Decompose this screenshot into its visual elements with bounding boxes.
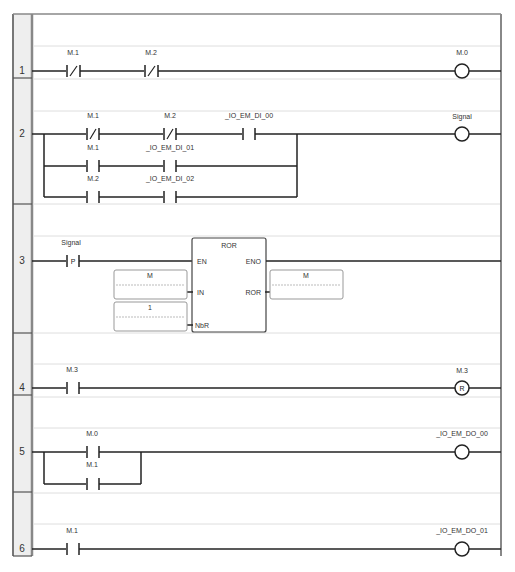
contact-nc-m2[interactable]: M.2 — [145, 49, 158, 77]
edge-glyph: P — [71, 258, 76, 265]
contact-label: M.1 — [66, 527, 78, 534]
contact-label: M.2 — [164, 112, 176, 119]
contact-label: _IO_EM_DI_02 — [145, 175, 194, 183]
contact-no-m1[interactable]: M.1 — [87, 144, 99, 172]
rung-number: 3 — [19, 255, 25, 266]
contact-label: M.1 — [87, 112, 99, 119]
rung-number: 2 — [19, 128, 25, 139]
rung-5[interactable]: 5 M.0 M.1 _IO_EM_DO_00 — [19, 430, 501, 490]
contact-label: _IO_EM_DI_01 — [145, 144, 194, 152]
contact-no-io-em-di-02[interactable]: _IO_EM_DI_02 — [145, 175, 194, 203]
operand-value: M — [147, 272, 153, 279]
operand-value: M — [303, 272, 309, 279]
block-name: ROR — [221, 242, 237, 249]
contact-label: M.1 — [86, 461, 98, 468]
rung-number: 4 — [19, 382, 25, 393]
contact-no-m0[interactable]: M.0 — [86, 430, 99, 458]
coil-label: Signal — [452, 113, 472, 121]
contact-no-m1[interactable]: M.1 — [66, 527, 79, 555]
pin-nbr: NbR — [195, 322, 209, 329]
rung-number: 1 — [19, 65, 25, 76]
rung-3[interactable]: 3 P Signal ROR EN IN NbR ENO ROR M — [19, 238, 501, 332]
contact-label: M.2 — [87, 175, 99, 182]
operand-value: 1 — [148, 304, 152, 311]
contact-label: M.0 — [86, 430, 98, 437]
contact-no-m2[interactable]: M.2 — [87, 175, 99, 203]
pin-in: IN — [197, 289, 204, 296]
coil-label: _IO_EM_DO_01 — [435, 527, 488, 535]
rung-2[interactable]: 2 M.1 M.2 _IO_EM_DI_00 Signal — [19, 112, 501, 203]
contact-no-m3[interactable]: M.3 — [66, 366, 79, 394]
coil-label: M.3 — [456, 367, 468, 374]
contact-no-io-em-di-01[interactable]: _IO_EM_DI_01 — [145, 144, 194, 172]
ladder-diagram: 1 M.1 M.2 M.0 2 — [0, 0, 515, 572]
coil-label: M.0 — [456, 49, 468, 56]
rung-1[interactable]: 1 M.1 M.2 M.0 — [19, 49, 501, 78]
coil-label: _IO_EM_DO_00 — [435, 430, 488, 438]
pin-eno: ENO — [246, 258, 262, 265]
coil-signal[interactable]: Signal — [452, 113, 472, 141]
contact-nc-m1[interactable]: M.1 — [87, 112, 99, 140]
coil-glyph: R — [459, 385, 464, 392]
operand-in-field[interactable]: M — [114, 270, 187, 299]
operand-nbr-field[interactable]: 1 — [114, 302, 187, 331]
rung-number: 5 — [19, 446, 25, 457]
coil-reset-m3[interactable]: R M.3 — [455, 367, 469, 395]
contact-positive-edge-signal[interactable]: P Signal — [61, 239, 81, 267]
contact-nc-m1[interactable]: M.1 — [67, 49, 80, 77]
operand-out-field[interactable]: M — [270, 270, 343, 299]
contact-label: M.1 — [67, 49, 79, 56]
contact-label: M.2 — [145, 49, 157, 56]
rung-4[interactable]: 4 M.3 R M.3 — [19, 366, 501, 395]
contact-label: M.1 — [87, 144, 99, 151]
coil-io-em-do-01[interactable]: _IO_EM_DO_01 — [435, 527, 488, 556]
pin-ror: ROR — [245, 289, 261, 296]
coil-io-em-do-00[interactable]: _IO_EM_DO_00 — [435, 430, 488, 459]
rung-number: 6 — [19, 543, 25, 554]
contact-label: _IO_EM_DI_00 — [224, 112, 273, 120]
contact-no-io-em-di-00[interactable]: _IO_EM_DI_00 — [224, 112, 273, 140]
rung-number-gutter — [13, 14, 32, 556]
contact-label: M.3 — [66, 366, 78, 373]
contact-nc-m2[interactable]: M.2 — [164, 112, 176, 140]
coil-m0[interactable]: M.0 — [455, 49, 469, 78]
function-block-ror[interactable]: ROR EN IN NbR ENO ROR — [187, 238, 271, 332]
pin-en: EN — [197, 258, 207, 265]
contact-no-m1[interactable]: M.1 — [86, 461, 99, 490]
contact-label: Signal — [61, 239, 81, 247]
rung-6[interactable]: 6 M.1 _IO_EM_DO_01 — [19, 527, 501, 556]
